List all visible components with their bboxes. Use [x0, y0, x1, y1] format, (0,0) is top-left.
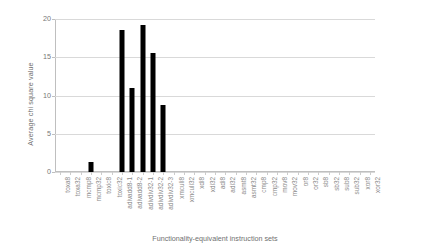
bar-slot [344, 19, 354, 172]
bar-slot [158, 19, 168, 172]
bar-slot [189, 19, 199, 172]
x-tick-label: adivadd8-2 [135, 177, 144, 233]
bar-slot [365, 19, 375, 172]
bar-slot [200, 19, 210, 172]
x-tick-label: xmculi32 [187, 177, 196, 233]
bar-slot [179, 19, 189, 172]
x-tick-label: toxa32 [73, 177, 82, 233]
x-tick-label: adi8 [218, 177, 227, 233]
x-tick-mark [267, 172, 268, 175]
x-tick-mark [225, 172, 226, 175]
x-tick-label: mov32 [290, 177, 299, 233]
x-tick-mark [91, 172, 92, 175]
x-tick-mark [287, 172, 288, 175]
x-tick-label: adivdiv32-3 [166, 177, 175, 233]
x-tick-label: mov8 [280, 177, 289, 233]
bar-slot [117, 19, 127, 172]
bar-slot [313, 19, 323, 172]
x-tick-label: asmt32 [249, 177, 258, 233]
x-tick-label: xmculi8 [177, 177, 186, 233]
x-tick-mark [308, 172, 309, 175]
x-tick-label: sub32 [352, 177, 361, 233]
bar-slot [210, 19, 220, 172]
x-tick-label: asmt8 [239, 177, 248, 233]
bar-slot [354, 19, 364, 172]
bar-slot [220, 19, 230, 172]
bar-slot [65, 19, 75, 172]
x-tick-mark [184, 172, 185, 175]
x-tick-mark [163, 172, 164, 175]
bar-slot [169, 19, 179, 172]
x-tick-label: xdi32 [208, 177, 217, 233]
bar-slot [323, 19, 333, 172]
x-tick-mark [349, 172, 350, 175]
bar-slot [55, 19, 65, 172]
x-axis-title: Functionality-equivalent instruction set… [55, 234, 375, 243]
bar [89, 162, 94, 172]
x-tick-label: mcmp32 [94, 177, 103, 233]
x-tick-mark [236, 172, 237, 175]
x-tick-label: xdi8 [197, 177, 206, 233]
x-tick-mark [277, 172, 278, 175]
chart-container: Average chi square value 05101520 toxa8t… [0, 0, 439, 250]
bar-slot [241, 19, 251, 172]
bar-slot [76, 19, 86, 172]
x-tick-mark [339, 172, 340, 175]
x-tick-label: cmp32 [270, 177, 279, 233]
x-tick-label: sb8 [321, 177, 330, 233]
x-tick-label: cmp8 [259, 177, 268, 233]
y-tick-label: 20 [25, 15, 51, 23]
bar [161, 105, 166, 172]
x-tick-label: adi32 [228, 177, 237, 233]
x-tick-mark [215, 172, 216, 175]
x-tick-mark [70, 172, 71, 175]
y-tick-label: 5 [25, 130, 51, 138]
x-tick-mark [194, 172, 195, 175]
x-tick-mark [112, 172, 113, 175]
x-tick-mark [246, 172, 247, 175]
plot-area: 05101520 [55, 19, 375, 172]
bar-slot [230, 19, 240, 172]
x-tick-label: adivadd8-1 [125, 177, 134, 233]
bar-slot [261, 19, 271, 172]
x-tick-mark [143, 172, 144, 175]
x-tick-labels: toxa8toxa32mcmp8mcmp32toxic8toxic32adiva… [55, 172, 375, 232]
x-tick-mark [174, 172, 175, 175]
bar-slot [138, 19, 148, 172]
bar-slot [282, 19, 292, 172]
bar-slot [96, 19, 106, 172]
bar-slot [86, 19, 96, 172]
bar-slot [251, 19, 261, 172]
x-tick-mark [298, 172, 299, 175]
bar-slot [272, 19, 282, 172]
x-tick-mark [329, 172, 330, 175]
bar-slot [107, 19, 117, 172]
x-tick-mark [370, 172, 371, 175]
x-tick-mark [256, 172, 257, 175]
x-tick-label: xor32 [373, 177, 382, 233]
x-tick-label: sb32 [332, 177, 341, 233]
x-tick-label: adivdiv32-1 [146, 177, 155, 233]
bar [140, 25, 145, 172]
bar-slot [303, 19, 313, 172]
x-tick-mark [101, 172, 102, 175]
x-tick-label: sub8 [342, 177, 351, 233]
bar [130, 88, 135, 172]
bar-series [55, 19, 375, 172]
x-tick-label: toxic8 [104, 177, 113, 233]
x-tick-mark [153, 172, 154, 175]
bar-slot [148, 19, 158, 172]
y-tick-label: 15 [25, 53, 51, 61]
x-tick-mark [60, 172, 61, 175]
bar [151, 53, 156, 172]
x-tick-label: or32 [311, 177, 320, 233]
x-tick-mark [318, 172, 319, 175]
bar-slot [292, 19, 302, 172]
x-tick-mark [122, 172, 123, 175]
x-tick-label: xor8 [363, 177, 372, 233]
x-tick-mark [132, 172, 133, 175]
x-tick-label: mcmp8 [84, 177, 93, 233]
x-tick-label: toxa8 [63, 177, 72, 233]
bar [120, 30, 125, 172]
x-tick-label: or8 [301, 177, 310, 233]
